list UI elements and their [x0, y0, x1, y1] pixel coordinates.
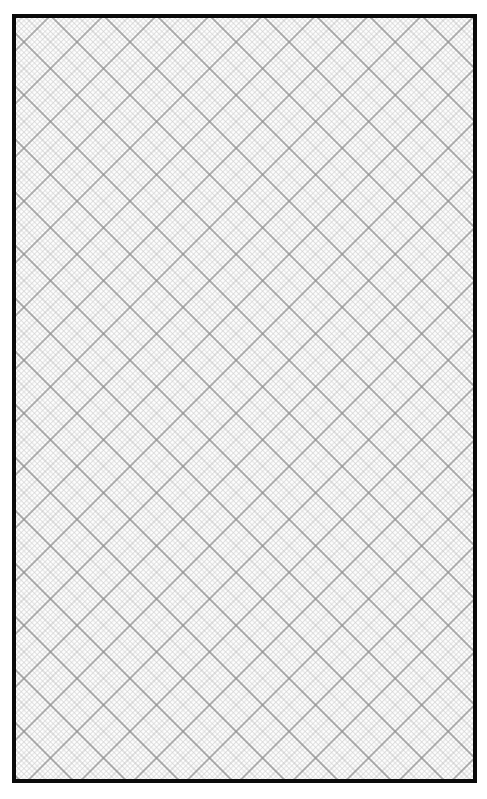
graph-paper-page	[0, 0, 487, 799]
graph-paper-frame	[12, 14, 477, 783]
grid-fill	[16, 18, 473, 779]
diagonal-grid	[16, 18, 473, 779]
